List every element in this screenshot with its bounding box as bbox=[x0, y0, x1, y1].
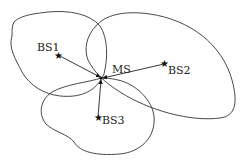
bs1-label: BS1 bbox=[37, 41, 60, 54]
edge-bs1-ms bbox=[58, 55, 100, 77]
bs3-label: BS3 bbox=[102, 114, 125, 127]
ms-node bbox=[99, 76, 102, 79]
coverage-diagram: ★ ★ ★ BS1 BS2 BS3 MS bbox=[0, 0, 241, 162]
diagram-svg: ★ ★ ★ BS1 BS2 BS3 MS bbox=[0, 0, 241, 162]
ms-label: MS bbox=[112, 63, 131, 76]
bs2-label: BS2 bbox=[168, 64, 191, 77]
